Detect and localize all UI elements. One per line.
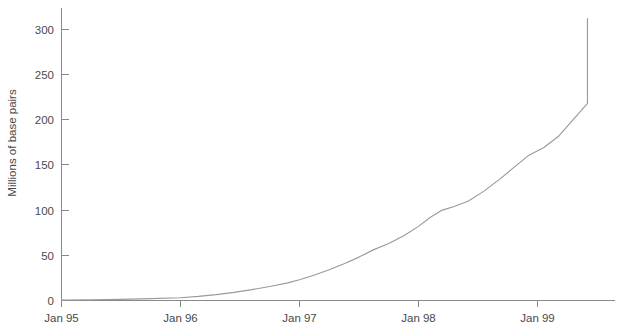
series-line-base-pairs: [62, 18, 588, 300]
x-tick-group: [62, 301, 538, 308]
y-tick-label-0: 0: [48, 295, 54, 307]
x-tick-label-jan-96: Jan 96: [163, 312, 198, 324]
y-tick-group: [62, 29, 70, 300]
chart-page: 0 50 100 150 200 250 300 Jan 95 Jan 96 J…: [0, 0, 620, 336]
y-axis-title: Millions of base pairs: [6, 89, 18, 197]
y-tick-label-250: 250: [35, 69, 54, 81]
x-tick-label-jan-98: Jan 98: [401, 312, 436, 324]
y-tick-label-50: 50: [41, 250, 54, 262]
y-tick-label-100: 100: [35, 205, 54, 217]
line-chart: 0 50 100 150 200 250 300 Jan 95 Jan 96 J…: [0, 0, 620, 336]
x-tick-label-jan-95: Jan 95: [44, 312, 79, 324]
y-tick-label-150: 150: [35, 159, 54, 171]
y-tick-label-200: 200: [35, 114, 54, 126]
y-tick-label-300: 300: [35, 24, 54, 36]
x-tick-label-jan-97: Jan 97: [282, 312, 317, 324]
x-tick-label-jan-99: Jan 99: [520, 312, 555, 324]
